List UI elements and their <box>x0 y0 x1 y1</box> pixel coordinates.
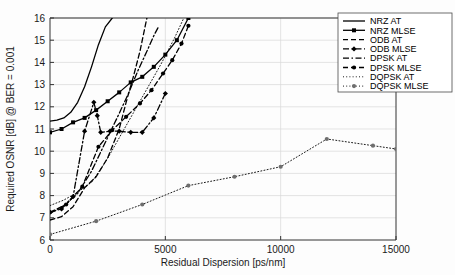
chart-canvas: 678910111213141516050001000015000 Residu… <box>0 0 455 275</box>
data-point-marker <box>124 115 128 119</box>
data-point-marker <box>371 144 375 148</box>
series-dqpsk-mlse <box>48 137 398 237</box>
data-point-marker <box>71 120 75 124</box>
x-tick-label: 5000 <box>154 244 177 255</box>
series-dpsk-mlse <box>48 24 191 215</box>
data-point-marker <box>95 113 100 118</box>
data-point-marker <box>170 58 174 62</box>
x-tick-label: 15000 <box>382 244 410 255</box>
data-point-marker <box>279 165 283 169</box>
data-point-marker <box>152 65 156 69</box>
data-point-marker <box>64 202 68 206</box>
data-point-marker <box>186 16 190 20</box>
data-point-marker <box>186 184 190 188</box>
chart-legend: NRZ ATNRZ MLSEODB ATODB MLSEDPSK ATDPSK … <box>338 13 452 92</box>
y-tick-label: 12 <box>34 101 46 112</box>
y-axis-title: Required OSNR [dB] @ BER = 0.001 <box>5 46 16 212</box>
series-line <box>50 27 158 213</box>
data-point-marker <box>352 28 356 32</box>
data-point-marker <box>163 91 168 96</box>
series-line <box>50 93 165 212</box>
data-point-marker <box>83 116 87 120</box>
data-point-marker <box>94 219 98 223</box>
data-point-marker <box>352 65 356 69</box>
data-point-marker <box>163 53 167 57</box>
data-point-marker <box>98 130 103 135</box>
x-axis-title: Residual Dispersion [ps/nm] <box>161 257 286 268</box>
data-point-marker <box>186 24 190 28</box>
data-point-marker <box>96 145 100 149</box>
y-tick-label: 8 <box>39 190 45 201</box>
series-dqpsk-at <box>50 18 184 206</box>
y-tick-label: 7 <box>39 212 45 223</box>
y-tick-label: 11 <box>35 124 46 135</box>
y-tick-label: 13 <box>34 79 46 90</box>
x-tick-label: 0 <box>47 244 53 255</box>
data-point-marker <box>48 210 52 214</box>
data-point-marker <box>82 129 87 134</box>
data-point-marker <box>179 41 183 45</box>
data-point-marker <box>48 130 52 134</box>
data-point-marker <box>232 175 236 179</box>
y-tick-label: 9 <box>39 168 45 179</box>
y-tick-label: 6 <box>39 235 45 246</box>
data-point-marker <box>175 38 179 42</box>
data-point-marker <box>394 147 398 151</box>
series-line <box>50 18 188 132</box>
series-line <box>50 18 112 121</box>
series-line <box>50 139 396 234</box>
data-point-marker <box>91 100 96 105</box>
data-point-marker <box>140 202 144 206</box>
x-tick-label: 10000 <box>267 244 295 255</box>
data-point-marker <box>140 75 144 79</box>
series-nrz-mlse <box>48 16 190 134</box>
y-tick-label: 10 <box>34 146 46 157</box>
axis-title-layer: Residual Dispersion [ps/nm] Required OSN… <box>5 46 285 268</box>
data-point-marker <box>117 90 121 94</box>
series-line <box>50 18 184 206</box>
y-tick-label: 16 <box>34 13 46 24</box>
series-odb-mlse <box>47 91 168 215</box>
data-point-marker <box>128 130 133 135</box>
data-point-marker <box>60 127 64 131</box>
series-dpsk-at <box>50 27 158 213</box>
chart-figure: 678910111213141516050001000015000 Residu… <box>0 0 455 275</box>
series-line <box>50 26 188 212</box>
data-point-marker <box>352 84 356 88</box>
y-tick-label: 15 <box>34 35 46 46</box>
y-tick-label: 14 <box>34 57 46 68</box>
data-point-marker <box>110 128 114 132</box>
data-point-marker <box>161 71 165 75</box>
series-nrz-at <box>50 18 112 121</box>
data-point-marker <box>325 137 329 141</box>
legend-label: DQPSK MLSE <box>370 81 429 91</box>
data-point-marker <box>149 88 153 92</box>
data-point-marker <box>106 99 110 103</box>
data-point-marker <box>48 232 52 236</box>
